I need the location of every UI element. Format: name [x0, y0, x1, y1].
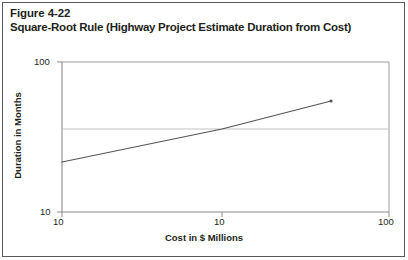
y-axis-tick-label-top: 100	[34, 56, 50, 67]
x-axis-tick-label-right: 100	[378, 216, 394, 227]
series-endpoint-marker	[329, 99, 332, 102]
x-axis-tick-label-left: 10	[53, 216, 64, 227]
plot-area: 100 10 10 10 100 Cost in $ Millions Dura…	[0, 0, 408, 260]
figure-container: Figure 4-22 Square-Root Rule (Highway Pr…	[0, 0, 408, 260]
series-line	[62, 101, 331, 162]
x-axis-title: Cost in $ Millions	[0, 232, 408, 243]
plot-frame	[62, 62, 389, 212]
y-axis-title: Duration in Months	[12, 76, 23, 196]
tick-marks	[57, 62, 389, 217]
data-series-square-root-rule	[62, 99, 333, 162]
x-axis-tick-label-mid: 10	[214, 216, 225, 227]
y-axis-tick-label-bottom: 10	[40, 206, 51, 217]
